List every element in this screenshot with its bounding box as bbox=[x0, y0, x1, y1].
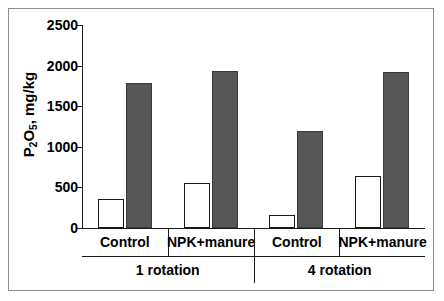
bar-open bbox=[355, 176, 381, 228]
rotation-label-cell: 1 rotation bbox=[82, 257, 254, 283]
treatment-label-cell: Control bbox=[254, 228, 340, 256]
rotation-label-cell: 4 rotation bbox=[254, 257, 426, 283]
bar-open bbox=[184, 183, 210, 228]
category-label-table: ControlNPK+manureControlNPK+manure 1 rot… bbox=[82, 228, 425, 283]
y-axis-tick-label: 0 bbox=[26, 221, 78, 235]
y-axis-tick-label: 2500 bbox=[26, 18, 78, 32]
bar-open bbox=[98, 199, 124, 228]
treatment-label-cell: NPK+manure bbox=[339, 228, 425, 256]
y-axis-tick-mark bbox=[76, 147, 82, 148]
y-axis-tick-mark bbox=[76, 106, 82, 107]
treatment-label-cell: NPK+manure bbox=[168, 228, 254, 256]
y-axis-tick-label: 500 bbox=[26, 180, 78, 194]
bar-open bbox=[269, 215, 295, 228]
y-axis-tick-labels: 05001000150020002500 bbox=[22, 0, 78, 301]
plot-area bbox=[82, 25, 425, 228]
y-axis-tick-label: 1000 bbox=[26, 140, 78, 154]
bar-filled bbox=[383, 72, 409, 228]
figure-root: P2O5, mg/kg 05001000150020002500 Control… bbox=[0, 0, 444, 301]
rotation-label-row: 1 rotation4 rotation bbox=[82, 257, 425, 283]
y-axis-tick-mark bbox=[76, 228, 82, 229]
y-axis-tick-label: 2000 bbox=[26, 59, 78, 73]
treatment-label-cell: Control bbox=[82, 228, 168, 256]
y-axis-tick-label: 1500 bbox=[26, 99, 78, 113]
bar-filled bbox=[126, 83, 152, 228]
y-axis-tick-mark bbox=[76, 25, 82, 26]
bar-filled bbox=[297, 131, 323, 228]
y-axis-tick-mark bbox=[76, 66, 82, 67]
treatment-label-row: ControlNPK+manureControlNPK+manure bbox=[82, 228, 425, 257]
y-axis-tick-mark bbox=[76, 187, 82, 188]
bar-filled bbox=[212, 71, 238, 228]
